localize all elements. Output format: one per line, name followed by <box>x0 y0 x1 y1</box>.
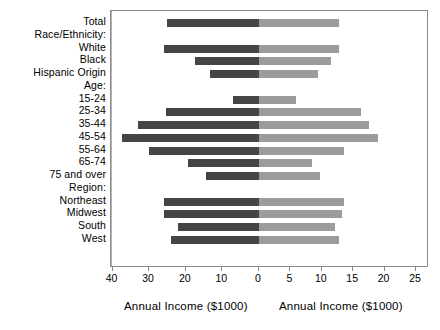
bar-right-black <box>259 57 331 65</box>
bar-right-45-54 <box>259 134 378 142</box>
x-tick-label-right-25: 25 <box>409 272 421 284</box>
bar-left-northeast <box>164 198 259 206</box>
category-label-55-64: 55-64 <box>79 144 106 155</box>
category-label-region: Region: <box>69 182 106 193</box>
bar-left-white <box>164 45 259 53</box>
bar-left-65-74 <box>188 159 259 167</box>
bar-right-south <box>259 223 335 231</box>
zero-axis-line <box>111 11 112 266</box>
category-label-25-34: 25-34 <box>79 105 106 116</box>
x-tick-label-right-0: 0 <box>255 272 261 284</box>
income-bar-chart: TotalRace/Ethnicity:WhiteBlackHispanic O… <box>0 0 440 330</box>
category-label-total: Total <box>83 16 106 27</box>
x-axis-title-right: Annual Income ($1000) <box>279 299 403 313</box>
x-tick-label-left-40: 40 <box>106 272 118 284</box>
x-tick-left-40 <box>112 267 113 271</box>
bar-left-south <box>178 223 259 231</box>
x-tick-right-5 <box>289 267 290 271</box>
bar-right-west <box>259 236 339 244</box>
bar-right-35-44 <box>259 121 369 129</box>
category-label-age: Age: <box>84 80 106 91</box>
x-tick-label-left-30: 30 <box>142 272 154 284</box>
category-label-white: White <box>79 42 106 53</box>
bar-left-55-64 <box>149 147 259 155</box>
x-tick-label-left-10: 10 <box>216 272 228 284</box>
bar-left-75-and-over <box>206 172 259 180</box>
x-tick-right-25 <box>415 267 416 271</box>
bar-left-hispanic-origin <box>210 70 259 78</box>
x-tick-label-right-10: 10 <box>315 272 327 284</box>
bar-right-75-and-over <box>259 172 320 180</box>
category-label-45-54: 45-54 <box>79 131 106 142</box>
bar-left-midwest <box>164 210 259 218</box>
category-label-race-ethnicity: Race/Ethnicity: <box>34 29 106 40</box>
bar-left-15-24 <box>233 96 259 104</box>
bar-right-hispanic-origin <box>259 70 318 78</box>
bar-right-25-34 <box>259 108 361 116</box>
bar-right-total <box>259 19 339 27</box>
category-label-south: South <box>78 220 106 231</box>
category-label-35-44: 35-44 <box>79 118 106 129</box>
category-label-northeast: Northeast <box>60 195 106 206</box>
category-label-west: West <box>82 233 106 244</box>
x-tick-label-right-20: 20 <box>378 272 390 284</box>
x-tick-label-right-5: 5 <box>286 272 292 284</box>
category-label-75-and-over: 75 and over <box>49 169 106 180</box>
category-label-midwest: Midwest <box>67 207 106 218</box>
x-axis-title-left: Annual Income ($1000) <box>124 299 248 313</box>
x-tick-left-20 <box>185 267 186 271</box>
x-tick-label-right-15: 15 <box>346 272 358 284</box>
category-label-15-24: 15-24 <box>79 93 106 104</box>
x-tick-left-30 <box>148 267 149 271</box>
plot-area <box>110 10 428 267</box>
bar-left-west <box>171 236 259 244</box>
bar-left-total <box>167 19 259 27</box>
x-tick-left-10 <box>221 267 222 271</box>
x-tick-right-0 <box>258 267 259 271</box>
bar-left-25-34 <box>166 108 259 116</box>
category-label-65-74: 65-74 <box>79 156 106 167</box>
x-tick-right-10 <box>321 267 322 271</box>
bar-right-65-74 <box>259 159 312 167</box>
bar-right-white <box>259 45 339 53</box>
bar-left-45-54 <box>122 134 259 142</box>
bar-right-midwest <box>259 210 342 218</box>
category-label-black: Black <box>80 54 106 65</box>
bar-left-black <box>195 57 259 65</box>
bar-right-northeast <box>259 198 344 206</box>
bar-left-35-44 <box>138 121 259 129</box>
x-tick-label-left-20: 20 <box>179 272 191 284</box>
category-label-hispanic-origin: Hispanic Origin <box>33 67 106 78</box>
x-tick-right-20 <box>384 267 385 271</box>
x-tick-right-15 <box>352 267 353 271</box>
bar-right-55-64 <box>259 147 344 155</box>
bar-right-15-24 <box>259 96 296 104</box>
